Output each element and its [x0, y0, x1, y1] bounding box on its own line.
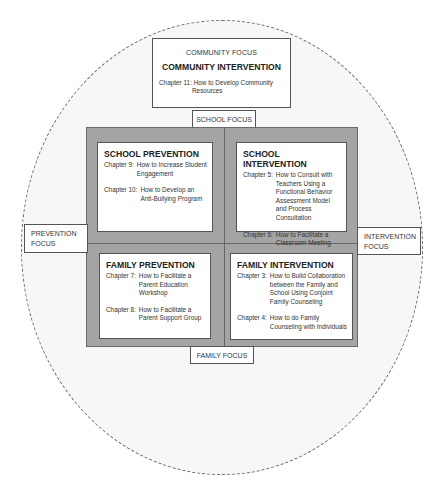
- chapter-number: Chapter 3:: [237, 272, 270, 306]
- chapter-title: How to Increase Student Engagement: [137, 161, 207, 178]
- family-focus-label: FAMILY FOCUS: [190, 346, 254, 364]
- chapter-number: Chapter 6:: [243, 231, 276, 248]
- chapter-entry: Chapter 5: How to Consult with Teachers …: [243, 171, 341, 223]
- chapter-entry: Chapter 3: How to Build Collaboration be…: [237, 272, 347, 306]
- chapter-number: Chapter 7:: [106, 272, 139, 298]
- chapter-entry: Chapter 8: How to Facilitate a Parent Su…: [106, 306, 205, 323]
- chapter-number: Chapter 5:: [243, 171, 276, 223]
- chapter-number: Chapter 9:: [104, 161, 137, 178]
- intervention-focus-line1: INTERVENTION: [364, 232, 420, 242]
- community-intervention-box: COMMUNITY FOCUS COMMUNITY INTERVENTION C…: [152, 38, 291, 108]
- chapter-title: How to do Family Counseling with Individ…: [270, 314, 347, 331]
- family-prevention-quadrant: FAMILY PREVENTION Chapter 7: How to Faci…: [99, 253, 211, 339]
- chapter-number: Chapter 10:: [104, 186, 140, 203]
- chapter-title: How to Build Collaboration between the F…: [270, 272, 347, 306]
- school-intervention-quadrant: SCHOOL INTERVENTION Chapter 5: How to Co…: [236, 142, 347, 232]
- quadrant-title: SCHOOL INTERVENTION: [243, 149, 341, 169]
- chapter-number: Chapter 8:: [106, 306, 139, 323]
- vertical-divider: [224, 127, 225, 347]
- family-intervention-quadrant: FAMILY INTERVENTION Chapter 3: How to Bu…: [230, 253, 353, 340]
- intervention-focus-label: INTERVENTION FOCUS: [357, 227, 421, 255]
- school-prevention-quadrant: SCHOOL PREVENTION Chapter 9: How to Incr…: [97, 142, 213, 232]
- school-focus-label: SCHOOL FOCUS: [192, 110, 256, 128]
- chapter-title: How to Develop an Anti-Bullying Program: [140, 186, 207, 203]
- community-focus-label: COMMUNITY FOCUS: [153, 49, 290, 56]
- chapter-entry: Chapter 10: How to Develop an Anti-Bully…: [104, 186, 207, 203]
- chapter-entry: Chapter 4: How to do Family Counseling w…: [237, 314, 347, 331]
- prevention-focus-label: PREVENTION FOCUS: [24, 224, 88, 253]
- prevention-focus-line1: PREVENTION: [31, 229, 87, 239]
- chapter-title: How to Facilitate a Parent Support Group: [139, 306, 205, 323]
- chapter-title: How to Facilitate a Parent Education Wor…: [139, 272, 205, 298]
- chapter-entry: Chapter 11: How to Develop Community Res…: [153, 79, 290, 95]
- chapter-title: How to Facilitate a Classroom Meeting: [276, 231, 341, 248]
- quadrant-title: SCHOOL PREVENTION: [104, 149, 207, 159]
- community-intervention-title: COMMUNITY INTERVENTION: [153, 62, 290, 72]
- chapter-number: Chapter 11:: [159, 79, 192, 86]
- quadrant-title: FAMILY PREVENTION: [106, 260, 205, 270]
- quadrant-title: FAMILY INTERVENTION: [237, 260, 347, 270]
- chapter-entry: Chapter 9: How to Increase Student Engag…: [104, 161, 207, 178]
- intervention-focus-line2: FOCUS: [364, 242, 420, 252]
- chapter-number: Chapter 4:: [237, 314, 270, 331]
- chapter-title: How to Develop Community: [194, 79, 273, 86]
- prevention-focus-line2: FOCUS: [31, 239, 87, 249]
- chapter-title-continued: Resources: [159, 87, 290, 95]
- chapter-entry: Chapter 6: How to Facilitate a Classroom…: [243, 231, 341, 248]
- chapter-entry: Chapter 7: How to Facilitate a Parent Ed…: [106, 272, 205, 298]
- chapter-title: How to Consult with Teachers Using a Fun…: [276, 171, 341, 223]
